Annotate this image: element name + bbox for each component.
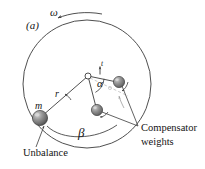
unbalance-mass-label: m [35, 101, 42, 112]
panel-label: (a) [26, 20, 39, 32]
alpha-label: α [97, 78, 103, 90]
compensator-caption-line2: weights [141, 136, 174, 147]
radius-label: r [55, 89, 59, 100]
adjust-arrow-unbalance-arm [65, 94, 71, 100]
omega-label: ω [50, 7, 58, 19]
unbalance-mass-highlight [35, 113, 40, 117]
beta-label: β [78, 126, 84, 140]
compensator-caption-line1: Compensator [141, 122, 197, 133]
leader-line-to-right-weight [122, 86, 138, 126]
compensator-weight-right-sphere [113, 76, 124, 87]
compensator-weight-right-highlight [115, 79, 118, 82]
rotor-balancing-figure: (a) ω m r α β t Unbalance Compensator we… [0, 0, 205, 169]
compensator-weight-lower-sphere [91, 104, 102, 115]
compensator-weight-lower-highlight [93, 107, 96, 110]
adjust-arrow-ghost [119, 96, 124, 108]
unbalance-mass-sphere [32, 110, 47, 125]
leader-line-to-unbalance [36, 126, 44, 147]
leader-line-to-lower-weight [102, 112, 138, 126]
rotor-outline-circle [23, 20, 151, 148]
radius-line-unbalance [42, 76, 88, 116]
omega-rotation-arrow [58, 13, 102, 18]
tick-label: t [101, 60, 103, 68]
rotor-hub [85, 73, 91, 79]
unbalance-caption: Unbalance [23, 147, 68, 158]
